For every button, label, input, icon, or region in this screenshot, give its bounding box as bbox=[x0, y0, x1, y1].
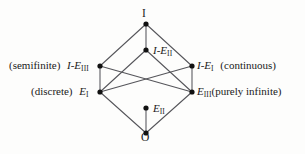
node-note-discrete: (discrete) bbox=[31, 85, 73, 97]
node-label-top: I bbox=[142, 8, 146, 20]
node-note-semifinite: (semifinite) bbox=[9, 59, 60, 71]
node-dot-top bbox=[143, 21, 148, 26]
node-note-continuous: (continuous) bbox=[220, 59, 276, 71]
node-label-ie2: I-EII bbox=[153, 45, 172, 56]
node-label-ie3: (semifinite) I-EIII bbox=[9, 60, 89, 71]
node-label-e3-base: E bbox=[197, 85, 204, 97]
lattice-edges-layer bbox=[0, 0, 305, 154]
node-dot-ie2 bbox=[143, 47, 148, 52]
node-label-bottom: O bbox=[141, 132, 149, 144]
node-dot-ie1 bbox=[189, 63, 194, 68]
node-note-purely-infinite: (purely infinite) bbox=[212, 85, 282, 97]
node-label-e1-base: E bbox=[79, 85, 86, 97]
node-dot-e3 bbox=[189, 89, 194, 94]
node-label-ie3-subscript: III bbox=[81, 64, 89, 73]
edge-top-ie3 bbox=[100, 24, 146, 66]
node-label-ie1-subscript: I bbox=[211, 64, 214, 73]
node-label-ie3-base: I-E bbox=[67, 59, 81, 71]
node-label-e2-base: E bbox=[153, 102, 160, 114]
node-label-e2: EII bbox=[153, 103, 165, 114]
node-label-e3-subscript: III bbox=[204, 90, 212, 99]
node-label-e3: EIII(purely infinite) bbox=[197, 86, 281, 97]
node-label-ie1-base: I-E bbox=[197, 59, 211, 71]
lattice-diagram: I I-EII (semifinite) I-EIII I-EI (contin… bbox=[0, 0, 305, 154]
node-label-ie1: I-EI (continuous) bbox=[197, 60, 276, 71]
node-label-ie2-subscript: II bbox=[167, 49, 172, 58]
edge-e1-bottom bbox=[100, 92, 146, 133]
node-label-e2-subscript: II bbox=[160, 107, 165, 116]
node-dot-e2 bbox=[143, 105, 148, 110]
node-dot-e1 bbox=[97, 89, 102, 94]
node-label-ie2-base: I-E bbox=[153, 44, 167, 56]
node-dot-ie3 bbox=[97, 63, 102, 68]
node-label-bottom-text: O bbox=[141, 131, 149, 143]
node-label-top-text: I bbox=[142, 7, 146, 19]
node-label-e1: (discrete) EI bbox=[31, 86, 89, 97]
node-label-e1-subscript: I bbox=[86, 90, 89, 99]
